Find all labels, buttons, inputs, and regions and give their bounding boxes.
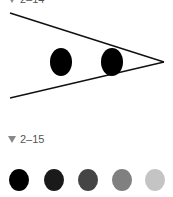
circle-1 <box>9 169 29 191</box>
figure-label-2-15: 2–15 <box>8 133 44 145</box>
figure-label-text: 2–15 <box>20 133 44 145</box>
ellipse-right <box>101 48 123 76</box>
diagram-canvas <box>0 0 173 197</box>
lower-line <box>10 62 164 98</box>
circle-5 <box>145 169 165 191</box>
ellipse-left <box>50 48 72 76</box>
triangle-down-icon <box>8 136 16 143</box>
figure-2-14 <box>10 13 164 98</box>
upper-line <box>10 13 164 62</box>
circle-2 <box>44 169 64 191</box>
figure-2-15-gradient-circles <box>9 169 165 191</box>
circle-4 <box>112 169 132 191</box>
circle-3 <box>78 169 98 191</box>
